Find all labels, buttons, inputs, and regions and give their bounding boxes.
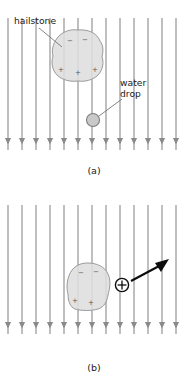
field-line-arrowhead [61,322,67,329]
field-line-arrowhead [145,322,151,329]
field-line-arrowhead [131,138,137,145]
hailstone-panel-b: − − + + [67,263,110,311]
field-line-arrowhead [75,138,81,145]
hailstone-charge-positive: + [72,297,78,305]
field-line-arrowhead [173,322,179,329]
panel-b-caption: (b) [87,362,100,373]
hailstone-charge-negative: − [78,269,84,277]
hailstone-panel-a: − − + + + [52,30,103,82]
field-line-arrowhead [159,138,165,145]
field-line-arrowhead [75,322,81,329]
panel-a: − − + + + hailstone water drop (a) [0,0,189,193]
field-line-arrowhead [145,138,151,145]
hailstone-charge-negative: − [82,36,88,44]
water-drop-label-line-1: water [120,77,146,88]
force-arrow-shaft [131,265,161,281]
positive-charge-symbol [115,278,128,291]
water-drop-leader-line [99,99,122,116]
hailstone-charge-positive: + [92,66,98,74]
field-line-arrowhead [103,322,109,329]
hailstone-charge-positive: + [88,299,94,307]
water-drop-label-line-2: drop [120,88,141,99]
field-line-arrowhead [103,138,109,145]
figure-root: − − + + + hailstone water drop (a) − − +… [0,0,189,386]
hailstone-label: hailstone [14,15,56,26]
hailstone-charge-negative: − [93,268,99,276]
field-line-arrowhead [5,138,11,145]
field-line-arrowhead [117,138,123,145]
field-line-arrowhead [131,322,137,329]
hailstone-charge-negative: − [67,37,73,45]
hailstone-charge-positive: + [75,69,81,77]
field-line-arrowhead [19,138,25,145]
field-line-arrowhead [117,322,123,329]
field-line-arrowhead [47,322,53,329]
field-line-arrowhead [61,138,67,145]
field-line-arrowhead [33,138,39,145]
panel-b: − − + + (b) [0,193,189,386]
panel-a-caption: (a) [87,165,100,176]
hailstone-charge-positive: + [58,66,64,74]
field-line-arrowhead [89,138,95,145]
field-line-arrowhead [5,322,11,329]
water-drop-circle [87,114,100,127]
electric-force-arrow [131,259,169,281]
field-line-arrowhead [19,322,25,329]
field-line-arrowhead [33,322,39,329]
field-line-arrowhead [173,138,179,145]
field-line-arrowhead [159,322,165,329]
field-line-arrowhead [47,138,53,145]
field-line-arrowhead [89,322,95,329]
